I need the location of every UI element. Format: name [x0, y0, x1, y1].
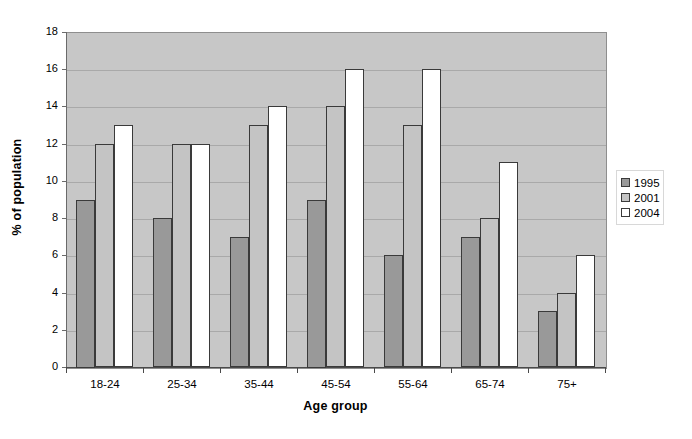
- x-axis-title: Age group: [66, 399, 605, 413]
- legend-item: 2001: [621, 190, 660, 205]
- y-tick-label: 16: [18, 63, 58, 74]
- x-tick-mark: [451, 368, 452, 373]
- bar: [249, 125, 268, 367]
- x-tick-label: 75+: [522, 377, 612, 391]
- x-tick-mark: [66, 368, 67, 373]
- legend-label: 1995: [634, 177, 660, 189]
- gridline: [67, 70, 606, 71]
- y-tick-mark: [62, 144, 66, 145]
- y-tick-label-wrap: 4: [0, 287, 58, 298]
- y-tick-mark: [62, 255, 66, 256]
- y-tick-label: 18: [18, 26, 58, 37]
- bar: [114, 125, 133, 367]
- bar-chart: 024681012141618 18-2425-3435-4445-5455-6…: [0, 0, 692, 439]
- bar: [95, 144, 114, 367]
- y-tick-label: 2: [18, 324, 58, 335]
- bar: [499, 162, 518, 367]
- legend-item: 1995: [621, 175, 660, 190]
- y-tick-label-wrap: 12: [0, 138, 58, 149]
- y-tick-label: 12: [18, 138, 58, 149]
- x-tick-mark: [605, 368, 606, 373]
- bar: [76, 200, 95, 368]
- y-tick-mark: [62, 181, 66, 182]
- y-axis-line: [66, 32, 67, 368]
- y-tick-label: 6: [18, 249, 58, 260]
- bar: [538, 311, 557, 367]
- bar: [172, 144, 191, 367]
- y-tick-label: 8: [18, 212, 58, 223]
- y-tick-label-wrap: 0: [0, 361, 58, 372]
- y-tick-label: 10: [18, 175, 58, 186]
- x-tick-mark: [297, 368, 298, 373]
- bar: [230, 237, 249, 367]
- x-tick-mark: [374, 368, 375, 373]
- y-tick-label-wrap: 18: [0, 26, 58, 37]
- bar: [557, 293, 576, 367]
- x-tick-mark: [143, 368, 144, 373]
- bar: [576, 255, 595, 367]
- bar: [403, 125, 422, 367]
- y-tick-mark: [62, 218, 66, 219]
- y-tick-label-wrap: 6: [0, 249, 58, 260]
- legend-item: 2004: [621, 205, 660, 220]
- y-tick-label-wrap: 14: [0, 100, 58, 111]
- legend-swatch-icon: [621, 193, 630, 202]
- y-tick-mark: [62, 293, 66, 294]
- y-tick-label-wrap: 10: [0, 175, 58, 186]
- legend: 199520012004: [616, 170, 664, 225]
- x-axis-line: [66, 367, 606, 368]
- bar: [326, 106, 345, 367]
- cropped-title-remnant: [0, 0, 692, 6]
- x-tick-mark: [528, 368, 529, 373]
- legend-label: 2001: [634, 192, 660, 204]
- y-tick-mark: [62, 69, 66, 70]
- y-tick-label-wrap: 8: [0, 212, 58, 223]
- legend-label: 2004: [634, 207, 660, 219]
- bar: [345, 69, 364, 367]
- bar: [384, 255, 403, 367]
- y-tick-mark: [62, 106, 66, 107]
- y-tick-mark: [62, 330, 66, 331]
- y-tick-label-wrap: 16: [0, 63, 58, 74]
- bar: [268, 106, 287, 367]
- y-axis-title: % of population: [10, 107, 24, 267]
- bar: [191, 144, 210, 367]
- y-tick-label: 14: [18, 100, 58, 111]
- bar: [307, 200, 326, 368]
- bar: [480, 218, 499, 367]
- y-tick-label-wrap: 2: [0, 324, 58, 335]
- bar: [461, 237, 480, 367]
- x-tick-mark: [220, 368, 221, 373]
- y-tick-mark: [62, 32, 66, 33]
- legend-swatch-icon: [621, 208, 630, 217]
- legend-swatch-icon: [621, 178, 630, 187]
- y-tick-label: 0: [18, 361, 58, 372]
- y-tick-label: 4: [18, 287, 58, 298]
- bar: [422, 69, 441, 367]
- bar: [153, 218, 172, 367]
